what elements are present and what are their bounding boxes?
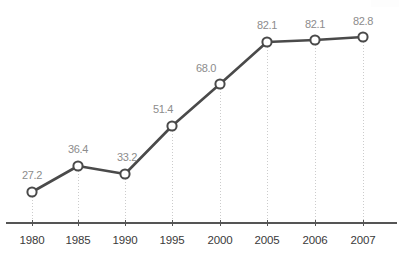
data-point-2007[interactable] <box>358 32 367 41</box>
data-point-2005[interactable] <box>262 37 271 46</box>
data-point-2006[interactable] <box>310 35 319 44</box>
x-axis-line <box>6 220 397 226</box>
chart-plot-area <box>0 0 401 257</box>
tick-label-1980: 1980 <box>20 235 45 247</box>
data-point-1985[interactable] <box>73 161 82 170</box>
line-chart: 27.236.433.251.468.082.182.182.8 1980198… <box>0 0 401 257</box>
data-point-2000[interactable] <box>215 79 224 88</box>
tick-label-2000: 2000 <box>208 235 233 247</box>
data-point-1980[interactable] <box>27 187 36 196</box>
tick-label-1985: 1985 <box>66 235 91 247</box>
tick-label-2007: 2007 <box>351 235 376 247</box>
tick-label-1990: 1990 <box>113 235 138 247</box>
data-point-1995[interactable] <box>167 121 176 130</box>
tick-label-1995: 1995 <box>160 235 185 247</box>
top-right-artifact <box>371 0 399 7</box>
tick-label-2005: 2005 <box>255 235 280 247</box>
data-point-1990[interactable] <box>120 169 129 178</box>
tick-label-2006: 2006 <box>303 235 328 247</box>
gridlines <box>32 42 363 223</box>
